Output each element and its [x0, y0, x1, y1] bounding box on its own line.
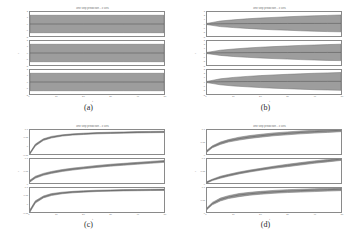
- y-tick-label: -1: [26, 87, 28, 90]
- panel-a-subplots: -2-1012-2-1012y-2-101201020304050t: [20, 11, 165, 95]
- y-tick-label: -1: [203, 85, 205, 88]
- mean-line: [30, 161, 164, 181]
- x-tick-label: 30: [286, 213, 289, 216]
- plot-area: [206, 129, 342, 155]
- panel-d-plots: one step prediction - 3 sets 00.050.100.…: [197, 125, 342, 213]
- panel-c-subplot-1: -0.0500.050.1: [20, 129, 165, 155]
- x-axis-ticks: 01020304050: [206, 95, 342, 99]
- panel-c-subplot-3: -0.0500.050.101020304050t: [20, 187, 165, 213]
- plot-area: [206, 11, 342, 37]
- x-tick-label: 20: [259, 213, 262, 216]
- panel-a-plots: one step prediction - 3 sets -2-1012-2-1…: [20, 7, 165, 95]
- panel-d-subplots: 00.050.100.050.1y00.050.101020304050t: [197, 129, 342, 213]
- y-tick-label: -1: [26, 29, 28, 32]
- y-tick-label: 0: [204, 81, 205, 84]
- y-tick-label: 0: [27, 145, 28, 148]
- x-tick-label: 50: [341, 213, 344, 216]
- y-tick-label: 2: [204, 14, 205, 17]
- y-tick-label: 0.05: [24, 194, 28, 197]
- plot-area: [29, 11, 165, 37]
- y-tick-label: -1: [26, 58, 28, 61]
- y-tick-label: 3: [204, 68, 205, 71]
- y-axis-ticks: 00.050.1: [197, 129, 206, 155]
- x-axis-ticks: 01020304050: [29, 95, 165, 99]
- y-tick-label: 1: [27, 74, 28, 77]
- panel-c: one step prediction - 3 sets -0.0500.050…: [0, 118, 177, 235]
- plot-area: [29, 158, 165, 184]
- y-tick-label: 0.1: [25, 128, 28, 131]
- panel-d: one step prediction - 3 sets 00.050.100.…: [177, 118, 354, 235]
- prediction-band: [30, 160, 164, 182]
- prediction-band: [207, 188, 341, 210]
- plot-area: [29, 40, 165, 66]
- x-tick-label: 40: [314, 95, 317, 98]
- y-tick-label: 0.05: [201, 199, 205, 202]
- y-tick-label: 0.1: [25, 157, 28, 160]
- panel-a-caption: (a): [0, 103, 177, 112]
- plot-area: [29, 187, 165, 213]
- y-axis-ticks: -2-1012: [20, 40, 29, 66]
- x-tick-label: 50: [341, 95, 344, 98]
- panel-a-subplot-1: -2-1012: [20, 11, 165, 37]
- plot-area: [206, 69, 342, 95]
- y-tick-label: 0: [27, 23, 28, 26]
- panel-d-caption: (d): [177, 220, 354, 229]
- x-tick-label: 20: [82, 213, 85, 216]
- y-tick-label: 3: [204, 10, 205, 13]
- mean-line: [30, 132, 164, 153]
- x-tick-label: 10: [232, 213, 235, 216]
- panel-c-caption: (c): [0, 220, 177, 229]
- panel-b-title: one step prediction - 3 sets: [197, 7, 342, 10]
- y-axis-ticks: -0.0500.050.1: [20, 187, 29, 213]
- y-tick-label: 0.1: [202, 128, 205, 131]
- x-tick-label: 0: [28, 213, 29, 216]
- y-tick-label: 1: [27, 45, 28, 48]
- x-tick-label: 30: [109, 213, 112, 216]
- y-axis-ticks: -2-1012: [20, 11, 29, 37]
- panel-c-title: one step prediction - 3 sets: [20, 125, 165, 128]
- plot-area: [29, 69, 165, 95]
- panel-d-title: one step prediction - 3 sets: [197, 125, 342, 128]
- y-axis-ticks: 00.050.1: [197, 158, 206, 184]
- y-tick-label: 0.1: [25, 186, 28, 189]
- y-tick-label: 2: [27, 10, 28, 13]
- y-axis-ticks: 00.050.1: [20, 158, 29, 184]
- panel-b-subplot-2: -3-2-10123y: [197, 40, 342, 66]
- y-tick-label: 0: [204, 52, 205, 55]
- x-tick-label: 30: [286, 95, 289, 98]
- y-tick-label: 2: [27, 68, 28, 71]
- x-tick-label: 40: [137, 213, 140, 216]
- y-tick-label: -1: [203, 27, 205, 30]
- y-tick-label: 1: [204, 47, 205, 50]
- panel-b-subplots: -3-2-10123-3-2-10123y-3-2-10123010203040…: [197, 11, 342, 95]
- y-tick-label: 2: [27, 39, 28, 42]
- panel-d-subplot-3: 00.050.101020304050t: [197, 187, 342, 213]
- y-tick-label: 0.05: [24, 170, 28, 173]
- y-axis-ticks: -3-2-10123: [197, 69, 206, 95]
- y-axis-label: y: [18, 170, 19, 173]
- panel-c-subplot-2: 00.050.1y: [20, 158, 165, 184]
- y-tick-label: 0.05: [201, 141, 205, 144]
- y-axis-ticks: -2-1012: [20, 69, 29, 95]
- x-tick-label: 50: [164, 213, 167, 216]
- figure-grid: one step prediction - 3 sets -2-1012-2-1…: [0, 0, 354, 235]
- panel-a: one step prediction - 3 sets -2-1012-2-1…: [0, 0, 177, 118]
- y-axis-label: y: [18, 52, 19, 55]
- y-tick-label: 1: [27, 16, 28, 19]
- y-tick-label: 0: [27, 203, 28, 206]
- y-tick-label: 0: [204, 23, 205, 26]
- y-tick-label: -2: [203, 60, 205, 63]
- y-tick-label: 0: [27, 52, 28, 55]
- x-axis-ticks: 01020304050: [206, 213, 342, 217]
- x-axis-ticks: 01020304050: [29, 213, 165, 217]
- panel-a-subplot-2: -2-1012y: [20, 40, 165, 66]
- x-tick-label: 20: [259, 95, 262, 98]
- x-tick-label: 0: [205, 213, 206, 216]
- x-tick-label: 0: [205, 95, 206, 98]
- x-tick-label: 10: [232, 95, 235, 98]
- x-tick-label: 40: [314, 213, 317, 216]
- y-tick-label: 3: [204, 39, 205, 42]
- x-tick-label: 40: [137, 95, 140, 98]
- panel-c-subplots: -0.0500.050.100.050.1y-0.0500.050.101020…: [20, 129, 165, 213]
- y-axis-label: y: [195, 52, 196, 55]
